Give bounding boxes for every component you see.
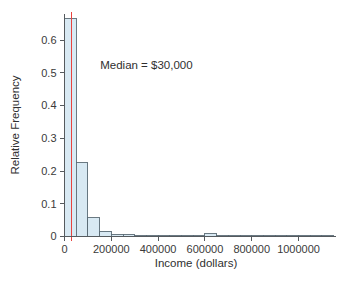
x-tick-label: 800000 [233, 243, 270, 255]
histogram-bar [88, 218, 100, 237]
x-tick-label: 0 [61, 243, 67, 255]
y-tick-label: 0.6 [41, 34, 56, 46]
x-tick-label: 400000 [140, 243, 177, 255]
median-annotation: Median = $30,000 [100, 59, 192, 71]
y-tick-label: 0.3 [41, 132, 56, 144]
x-tick-label: 600000 [187, 243, 224, 255]
histogram-bar [100, 231, 112, 236]
chart-canvas: 00.10.20.30.40.50.6 02000004000006000008… [0, 0, 350, 283]
histogram-bar [65, 19, 77, 237]
histogram-bar [76, 163, 88, 237]
y-axis-title: Relative Frequency [9, 75, 21, 174]
x-tick-label: 1000000 [277, 243, 320, 255]
y-tick-label: 0 [50, 230, 56, 242]
x-axis-title: Income (dollars) [155, 257, 238, 269]
y-tick-label: 0.5 [41, 67, 56, 79]
y-tick-label: 0.1 [41, 198, 56, 210]
y-tick-label: 0.2 [41, 165, 56, 177]
histogram-chart: 00.10.20.30.40.50.6 02000004000006000008… [0, 0, 350, 283]
y-tick-label: 0.4 [41, 99, 56, 111]
x-tick-label: 200000 [93, 243, 130, 255]
